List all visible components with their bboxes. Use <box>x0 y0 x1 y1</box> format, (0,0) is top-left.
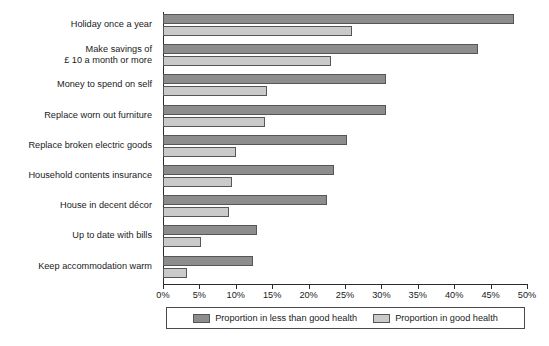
bar-chart: Holiday once a yearMake savings of £ 10 … <box>0 0 549 346</box>
legend-item[interactable]: Proportion in good health <box>373 313 498 323</box>
x-tick <box>418 285 419 289</box>
bar-less-than-good-health <box>163 195 327 205</box>
legend-swatch-icon <box>373 314 390 323</box>
bar-group <box>163 72 527 102</box>
bar-group <box>163 103 527 133</box>
legend-item[interactable]: Proportion in less than good health <box>193 313 357 323</box>
bar-good-health <box>163 268 187 278</box>
x-tick-label: 20% <box>299 290 317 300</box>
category-labels: Holiday once a yearMake savings of £ 10 … <box>0 12 158 284</box>
x-tick-label: 0% <box>156 290 169 300</box>
x-tick <box>236 285 237 289</box>
x-tick <box>454 285 455 289</box>
category-label: House in decent décor <box>0 200 158 211</box>
bar-less-than-good-health <box>163 135 347 145</box>
bar-good-health <box>163 86 267 96</box>
bar-less-than-good-health <box>163 14 514 24</box>
bar-good-health <box>163 177 232 187</box>
bar-less-than-good-health <box>163 165 334 175</box>
bar-group <box>163 12 527 42</box>
x-tick-label: 5% <box>193 290 206 300</box>
bar-good-health <box>163 207 229 217</box>
bar-less-than-good-health <box>163 105 386 115</box>
x-tick <box>272 285 273 289</box>
bar-less-than-good-health <box>163 225 257 235</box>
x-tick <box>491 285 492 289</box>
chart-legend: Proportion in less than good healthPropo… <box>166 307 525 329</box>
bar-less-than-good-health <box>163 44 478 54</box>
x-tick-label: 15% <box>263 290 281 300</box>
x-tick <box>527 285 528 289</box>
category-label: Money to spend on self <box>0 79 158 90</box>
x-tick-label: 35% <box>409 290 427 300</box>
x-tick <box>163 285 164 289</box>
legend-swatch-icon <box>193 314 210 323</box>
bar-group <box>163 163 527 193</box>
x-tick-label: 25% <box>336 290 354 300</box>
bar-group <box>163 42 527 72</box>
category-label: Make savings of £ 10 a month or more <box>0 44 158 65</box>
legend-label: Proportion in less than good health <box>215 313 357 323</box>
bar-group <box>163 193 527 223</box>
x-tick-label: 50% <box>518 290 536 300</box>
bar-good-health <box>163 237 201 247</box>
x-tick-label: 30% <box>372 290 390 300</box>
x-tick-label: 40% <box>445 290 463 300</box>
x-tick <box>381 285 382 289</box>
bar-good-health <box>163 117 265 127</box>
bar-group <box>163 133 527 163</box>
bar-group <box>163 223 527 253</box>
category-label: Replace broken electric goods <box>0 140 158 151</box>
category-label: Replace worn out furniture <box>0 110 158 121</box>
x-tick <box>309 285 310 289</box>
x-tick <box>199 285 200 289</box>
plot-area <box>163 12 527 284</box>
x-tick-label: 45% <box>481 290 499 300</box>
x-tick <box>345 285 346 289</box>
bar-good-health <box>163 147 236 157</box>
category-label: Keep accommodation warm <box>0 261 158 272</box>
category-label: Household contents insurance <box>0 170 158 181</box>
bar-less-than-good-health <box>163 256 253 266</box>
x-tick-label: 10% <box>227 290 245 300</box>
bar-good-health <box>163 26 352 36</box>
category-label: Up to date with bills <box>0 230 158 241</box>
bar-less-than-good-health <box>163 74 386 84</box>
category-label: Holiday once a year <box>0 19 158 30</box>
bar-group <box>163 254 527 284</box>
bar-good-health <box>163 56 331 66</box>
legend-label: Proportion in good health <box>395 313 498 323</box>
